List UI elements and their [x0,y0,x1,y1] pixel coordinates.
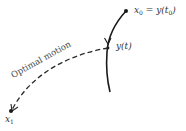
trajectory-arrow-icon [105,38,112,44]
optimal-motion-curve [12,48,108,110]
yt-label: y(t) [116,41,132,51]
x0-label: x0 = y(t0) [134,5,176,16]
x1-point [9,109,13,113]
x1-label: x1 [5,114,14,125]
diagram-canvas: x0 = y(t0) y(t) Optimal motion x1 [0,0,186,131]
x0-point [124,9,128,13]
trajectory-curve [107,11,126,92]
